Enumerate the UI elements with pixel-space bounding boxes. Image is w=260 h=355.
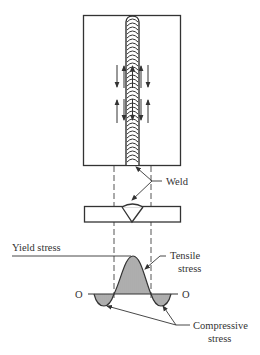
tensile-label-line2: stress	[178, 263, 201, 274]
weld-leader	[132, 167, 162, 200]
tensile-leader	[145, 256, 166, 269]
compressive-leader	[107, 306, 190, 325]
compressive-label-line1: Compressive	[193, 320, 248, 331]
weld-label: Weld	[166, 176, 189, 187]
origin-right-label: O	[182, 289, 190, 300]
tensile-label-line1: Tensile	[170, 250, 201, 261]
plate-cross-section	[85, 204, 181, 222]
origin-left-label: O	[75, 289, 83, 300]
yield-stress-label: Yield stress	[12, 242, 61, 253]
compressive-label-line2: stress	[208, 333, 231, 344]
weld-stress-diagram: Weld Yield stress	[0, 0, 260, 355]
weld-bead	[126, 16, 139, 165]
stress-distribution-curve	[88, 250, 178, 310]
